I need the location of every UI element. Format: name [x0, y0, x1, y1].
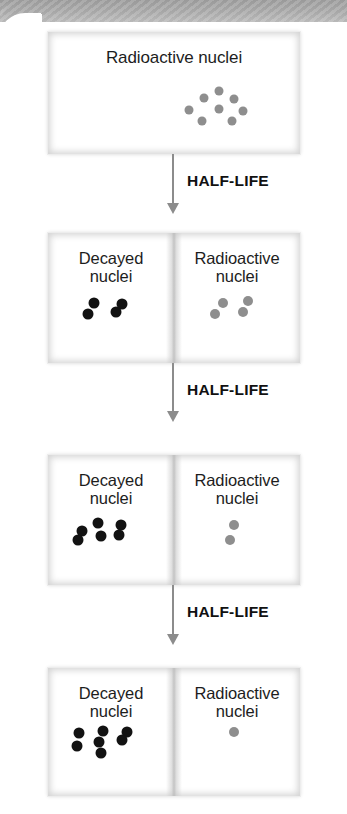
nuclei-dotfield-radioactive-1 [174, 286, 300, 363]
decayed-nucleus-dot [96, 531, 107, 542]
decayed-nucleus-dot [98, 725, 109, 736]
radioactive-nucleus-dot [225, 535, 235, 545]
decayed-nucleus-dot [116, 519, 127, 530]
decayed-nucleus-dot [73, 534, 84, 545]
nuclei-dotfield-decayed-2 [48, 508, 174, 585]
decayed-nucleus-dot [114, 529, 125, 540]
flow-arrow-2 [172, 363, 174, 414]
panel-radioactive: Radioactive nuclei [48, 32, 300, 154]
panel-decayed-2: Decayed nuclei [48, 455, 174, 585]
radioactive-nucleus-dot [238, 307, 248, 317]
stage-after-three-half-lives: Decayed nuclei Radioactive nuclei [48, 668, 300, 796]
radioactive-nucleus-dot [215, 105, 224, 114]
flow-arrow-1 [172, 154, 174, 206]
half-life-label-1: HALF-LIFE [187, 172, 269, 190]
panel-label-decayed-2: Decayed nuclei [79, 471, 143, 508]
decayed-nucleus-dot [82, 309, 93, 320]
decayed-nucleus-dot [72, 740, 83, 751]
half-life-label-2: HALF-LIFE [187, 381, 269, 399]
panel-label-radioactive-3: Radioactive nuclei [194, 684, 279, 721]
panel-decayed-3: Decayed nuclei [48, 668, 174, 796]
panel-decayed-1: Decayed nuclei [48, 233, 174, 363]
radioactive-nucleus-dot [229, 727, 239, 737]
flow-arrow-head-2 [167, 411, 179, 422]
radioactive-nucleus-dot [197, 116, 206, 125]
radioactive-nucleus-dot [185, 105, 194, 114]
half-life-diagram: Radioactive nuclei HALF-LIFE Decayed nuc… [0, 0, 347, 814]
flow-arrow-head-1 [167, 203, 179, 214]
stage-initial-sample: Radioactive nuclei [48, 32, 300, 154]
decayed-nucleus-dot [74, 727, 85, 738]
radioactive-nucleus-dot [243, 296, 253, 306]
flow-arrow-3 [172, 585, 174, 637]
panel-label-decayed-1: Decayed nuclei [79, 249, 143, 286]
panel-radioactive-2: Radioactive nuclei [174, 455, 300, 585]
stage-after-two-half-lives: Decayed nuclei Radioactive nuclei [48, 455, 300, 585]
radioactive-nucleus-dot [210, 309, 220, 319]
decayed-nucleus-dot [110, 307, 121, 318]
decayed-nucleus-dot [88, 297, 99, 308]
panel-label-radioactive-1: Radioactive nuclei [194, 249, 279, 286]
nuclei-dotfield-decayed-1 [48, 286, 174, 363]
panel-label-decayed-3: Decayed nuclei [79, 684, 143, 721]
radioactive-nucleus-dot [227, 116, 236, 125]
radioactive-nucleus-dot [230, 95, 239, 104]
nuclei-dotfield-radioactive-3 [174, 721, 300, 796]
stage-after-one-half-life: Decayed nuclei Radioactive nuclei [48, 233, 300, 363]
nuclei-dotfield-radioactive-2 [174, 508, 300, 585]
radioactive-nucleus-dot [229, 520, 239, 530]
radioactive-nucleus-dot [218, 298, 228, 308]
flow-arrow-head-3 [167, 634, 179, 645]
decayed-nucleus-dot [94, 736, 105, 747]
half-life-label-3: HALF-LIFE [187, 603, 269, 621]
panel-radioactive-3: Radioactive nuclei [174, 668, 300, 796]
nuclei-dotfield-decayed-3 [48, 721, 174, 796]
nuclei-dotfield-radioactive [48, 67, 300, 154]
decayed-nucleus-dot [93, 518, 104, 529]
radioactive-nucleus-dot [215, 87, 224, 96]
radioactive-nucleus-dot [239, 106, 248, 115]
panel-label-radioactive: Radioactive nuclei [106, 48, 242, 67]
decayed-nucleus-dot [96, 748, 107, 759]
radioactive-nucleus-dot [199, 94, 208, 103]
panel-radioactive-1: Radioactive nuclei [174, 233, 300, 363]
decayed-nucleus-dot [117, 735, 128, 746]
panel-label-radioactive-2: Radioactive nuclei [194, 471, 279, 508]
